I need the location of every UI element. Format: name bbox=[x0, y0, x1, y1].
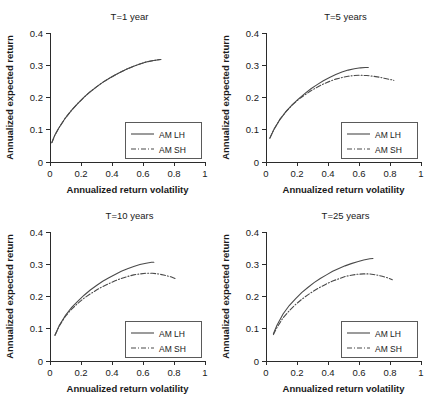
x-tick-label: 0.4 bbox=[105, 168, 118, 179]
legend-label: AM LH bbox=[375, 329, 401, 339]
legend-label: AM SH bbox=[375, 145, 402, 155]
x-tick-label: 0 bbox=[263, 168, 268, 179]
x-tick-label: 0.6 bbox=[352, 168, 365, 179]
y-tick-label: 0 bbox=[254, 157, 259, 168]
x-tick-label: 1 bbox=[202, 168, 207, 179]
x-axis-title: Annualized return volatility bbox=[283, 383, 406, 394]
x-tick-label: 0.8 bbox=[383, 168, 396, 179]
panel-title: T=10 years bbox=[106, 210, 154, 221]
x-tick-label: 0 bbox=[47, 168, 52, 179]
x-axis-title: Annualized return volatility bbox=[283, 184, 406, 195]
x-tick-label: 0.4 bbox=[105, 367, 118, 378]
y-tick-label: 0.1 bbox=[246, 323, 259, 334]
x-tick-label: 0.2 bbox=[74, 168, 87, 179]
x-tick-label: 0.2 bbox=[290, 168, 303, 179]
y-axis-title: Annualized expected return bbox=[220, 35, 231, 160]
x-tick-label: 0 bbox=[47, 367, 52, 378]
y-tick-label: 0 bbox=[38, 356, 43, 367]
y-axis-title: Annualized expected return bbox=[220, 234, 231, 359]
y-tick-label: 0.2 bbox=[30, 291, 43, 302]
x-tick-label: 0.4 bbox=[321, 367, 334, 378]
y-axis-title: Annualized expected return bbox=[4, 35, 15, 160]
y-tick-label: 0.3 bbox=[30, 259, 43, 270]
x-tick-label: 1 bbox=[418, 367, 423, 378]
legend-label: AM LH bbox=[159, 130, 185, 140]
y-tick-label: 0.4 bbox=[30, 227, 43, 238]
legend-label: AM LH bbox=[375, 130, 401, 140]
y-tick-label: 0.3 bbox=[246, 259, 259, 270]
x-axis-title: Annualized return volatility bbox=[67, 184, 190, 195]
chart-panel-2: T=10 years00.20.40.60.8100.10.20.30.4Ann… bbox=[0, 199, 215, 398]
x-tick-label: 0.4 bbox=[321, 168, 334, 179]
x-tick-label: 0.6 bbox=[136, 168, 149, 179]
chart-panel-1: T=5 years00.20.40.60.8100.10.20.30.4Annu… bbox=[216, 0, 431, 199]
x-tick-label: 1 bbox=[202, 367, 207, 378]
y-tick-label: 0 bbox=[254, 356, 259, 367]
panel-title: T=1 year bbox=[111, 11, 149, 22]
y-tick-label: 0.4 bbox=[30, 28, 43, 39]
y-tick-label: 0.3 bbox=[246, 60, 259, 71]
x-tick-label: 0 bbox=[263, 367, 268, 378]
x-tick-label: 0.2 bbox=[74, 367, 87, 378]
y-tick-label: 0.1 bbox=[30, 124, 43, 135]
y-tick-label: 0.3 bbox=[30, 60, 43, 71]
y-axis-title: Annualized expected return bbox=[4, 234, 15, 359]
legend-label: AM LH bbox=[159, 329, 185, 339]
y-tick-label: 0.1 bbox=[246, 124, 259, 135]
x-tick-label: 1 bbox=[418, 168, 423, 179]
y-tick-label: 0.2 bbox=[246, 291, 259, 302]
panel-title: T=5 years bbox=[324, 11, 367, 22]
chart-panel-0: T=1 year00.20.40.60.8100.10.20.30.4Annua… bbox=[0, 0, 215, 199]
legend-label: AM SH bbox=[375, 344, 402, 354]
chart-panel-3: T=25 years00.20.40.60.8100.10.20.30.4Ann… bbox=[216, 199, 431, 398]
y-tick-label: 0.1 bbox=[30, 323, 43, 334]
legend-label: AM SH bbox=[159, 145, 186, 155]
x-tick-label: 0.8 bbox=[167, 367, 180, 378]
panel-title: T=25 years bbox=[322, 210, 370, 221]
x-tick-label: 0.8 bbox=[167, 168, 180, 179]
x-tick-label: 0.6 bbox=[352, 367, 365, 378]
x-tick-label: 0.8 bbox=[383, 367, 396, 378]
figure-multi-panel-chart: T=1 year00.20.40.60.8100.10.20.30.4Annua… bbox=[0, 0, 431, 398]
x-tick-label: 0.2 bbox=[290, 367, 303, 378]
y-tick-label: 0.4 bbox=[246, 28, 259, 39]
y-tick-label: 0.2 bbox=[30, 92, 43, 103]
legend-label: AM SH bbox=[159, 344, 186, 354]
y-tick-label: 0.2 bbox=[246, 92, 259, 103]
x-tick-label: 0.6 bbox=[136, 367, 149, 378]
y-tick-label: 0 bbox=[38, 157, 43, 168]
x-axis-title: Annualized return volatility bbox=[67, 383, 190, 394]
y-tick-label: 0.4 bbox=[246, 227, 259, 238]
